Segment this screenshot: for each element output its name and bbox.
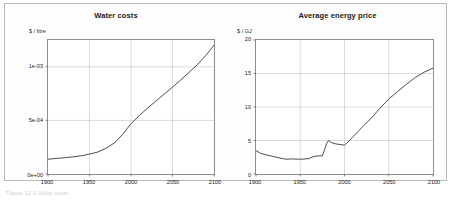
ticks-energy-price xyxy=(254,40,433,176)
y-tick-label: 20 xyxy=(245,36,251,42)
chart-panel-energy-price: Average energy price $ / GJ b 05101520 1… xyxy=(227,4,448,182)
x-tick-label: 1950 xyxy=(74,179,104,185)
plot-area-energy-price xyxy=(255,39,434,175)
x-tick-label: 2100 xyxy=(419,179,449,185)
ticks-water-costs xyxy=(46,67,214,177)
plot-area-water-costs xyxy=(47,39,215,175)
y-axis-label-water-costs: $ / litre xyxy=(29,28,46,34)
x-tick-label: 1900 xyxy=(240,179,270,185)
y-tick-label: 15 xyxy=(245,70,251,76)
y-axis-label-energy-price: $ / GJ xyxy=(237,28,252,34)
y-tick-label: 10 xyxy=(245,104,251,110)
y-tick-label: 5e-04 xyxy=(29,117,43,123)
gridlines-energy-price xyxy=(256,40,433,174)
x-tick-label: 2000 xyxy=(116,179,146,185)
figure-frame: Water costs $ / litre a 0e+005e-041e-03 … xyxy=(4,3,447,181)
chart-title-water-costs: Water costs xyxy=(5,11,227,20)
chart-panel-water-costs: Water costs $ / litre a 0e+005e-041e-03 … xyxy=(5,4,227,182)
water-costs-svg xyxy=(48,40,214,174)
y-tick-label: 0e+00 xyxy=(27,172,43,178)
x-tick-label: 2100 xyxy=(200,179,230,185)
y-tick-label: 0 xyxy=(248,172,251,178)
x-tick-label: 2050 xyxy=(158,179,188,185)
chart-title-energy-price: Average energy price xyxy=(227,11,448,20)
figure-caption: Figure 12.3 Utility costs xyxy=(6,190,446,199)
y-tick-label: 5 xyxy=(248,138,251,144)
energy-price-svg xyxy=(256,40,433,174)
x-tick-label: 1950 xyxy=(285,179,315,185)
x-tick-label: 1900 xyxy=(32,179,62,185)
gridlines-water-costs xyxy=(48,40,214,174)
y-tick-label: 1e-03 xyxy=(29,63,43,69)
x-tick-label: 2000 xyxy=(330,179,360,185)
x-tick-label: 2050 xyxy=(374,179,404,185)
